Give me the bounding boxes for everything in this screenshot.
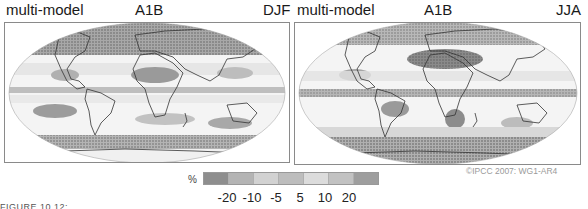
legend-tick: -5 [270,190,282,205]
color-legend [203,172,379,185]
panel-1-scenario-label: A1B [135,1,163,18]
legend-swatch-3 [254,173,279,184]
map-djf [4,22,290,163]
legend-swatch-2 [229,173,254,184]
panel-1-season-label: DJF [263,1,291,18]
legend-tick: -20 [218,190,237,205]
panel-2-season-label: JJA [556,1,581,18]
legend-swatch-1 [204,173,229,184]
figure-caption-partial: FIGURE 10.12: ... [0,202,80,209]
legend-swatch-7 [354,173,378,184]
copyright-credit: ©IPCC 2007: WG1-AR4 [466,166,557,176]
world-map-jja [295,23,580,164]
map-jja [294,22,581,165]
panel-2-model-label: multi-model [297,1,375,18]
legend-tick: -10 [243,190,262,205]
legend-swatch-4 [279,173,304,184]
legend-color-bar [203,172,379,185]
world-map-djf [5,23,289,162]
legend-swatch-6 [329,173,354,184]
legend-unit-label: % [188,174,197,185]
panel-2-scenario-label: A1B [424,1,452,18]
legend-tick: 10 [318,190,332,205]
legend-tick: 5 [296,190,303,205]
panel-1-model-label: multi-model [6,1,84,18]
legend-swatch-5 [304,173,329,184]
legend-tick: 20 [342,190,356,205]
